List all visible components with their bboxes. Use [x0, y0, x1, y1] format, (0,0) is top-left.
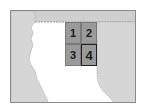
grid-cell-label: 4: [85, 48, 92, 63]
grid-cell-label: 3: [70, 49, 76, 61]
grid-cell-4: 4: [81, 44, 97, 66]
grid-cell-label: 2: [86, 27, 92, 39]
grid-cell-3: 3: [65, 44, 81, 66]
left-land-region: [11, 11, 49, 103]
grid-cell-label: 1: [70, 27, 76, 39]
right-land-region: [97, 22, 136, 103]
top-band-region: [35, 11, 136, 22]
grid-cell-2: 2: [81, 22, 97, 44]
map-frame: 1 2 3 4: [10, 10, 136, 103]
grid-cell-1: 1: [65, 22, 81, 44]
